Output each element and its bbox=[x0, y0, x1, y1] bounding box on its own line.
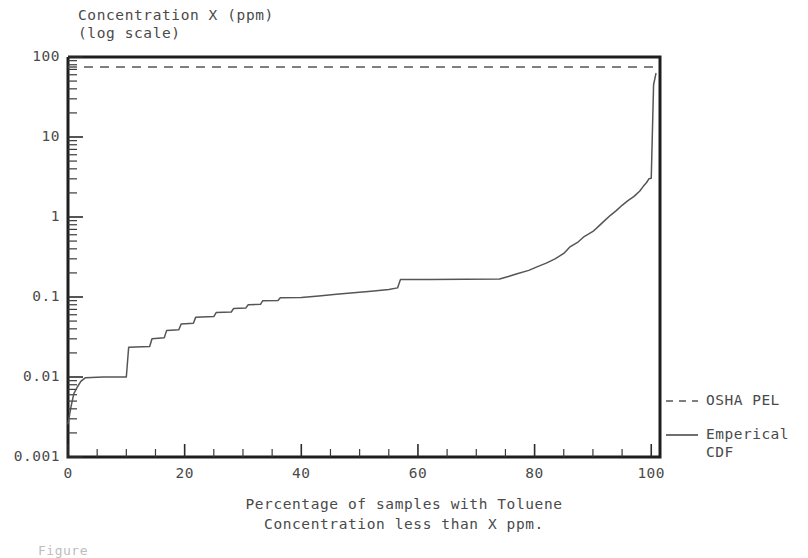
y-axis-major-ticks bbox=[68, 57, 83, 457]
x-tick-label-40: 40 bbox=[261, 465, 341, 481]
legend-label-osha-pel: OSHA PEL bbox=[706, 391, 780, 409]
y-tick-label-0.01: 0.01 bbox=[0, 368, 60, 384]
empirical-cdf-curve bbox=[68, 74, 656, 424]
figure-caption: Figure bbox=[38, 543, 88, 558]
plot-frame bbox=[68, 57, 660, 457]
y-tick-label-100: 100 bbox=[0, 48, 60, 64]
x-tick-label-60: 60 bbox=[378, 465, 458, 481]
x-axis-caption: Percentage of samples with TolueneConcen… bbox=[0, 494, 808, 534]
x-axis-caption-line-2: Concentration less than X ppm. bbox=[264, 516, 544, 532]
y-tick-label-0.001: 0.001 bbox=[0, 448, 60, 464]
x-tick-label-80: 80 bbox=[495, 465, 575, 481]
plot-frame-border bbox=[68, 57, 660, 457]
legend-label-emperical-cdf-line-2: CDF bbox=[706, 444, 734, 460]
legend-label-emperical-cdf-line-1: Emperical bbox=[706, 426, 789, 442]
y-tick-label-0.1: 0.1 bbox=[0, 288, 60, 304]
legend-label-emperical-cdf: EmpericalCDF bbox=[706, 425, 789, 461]
y-tick-label-1: 1 bbox=[0, 208, 60, 224]
x-tick-label-20: 20 bbox=[145, 465, 225, 481]
x-tick-label-0: 0 bbox=[28, 465, 108, 481]
x-axis-caption-line-1: Percentage of samples with Toluene bbox=[245, 496, 562, 512]
y-tick-label-10: 10 bbox=[0, 128, 60, 144]
